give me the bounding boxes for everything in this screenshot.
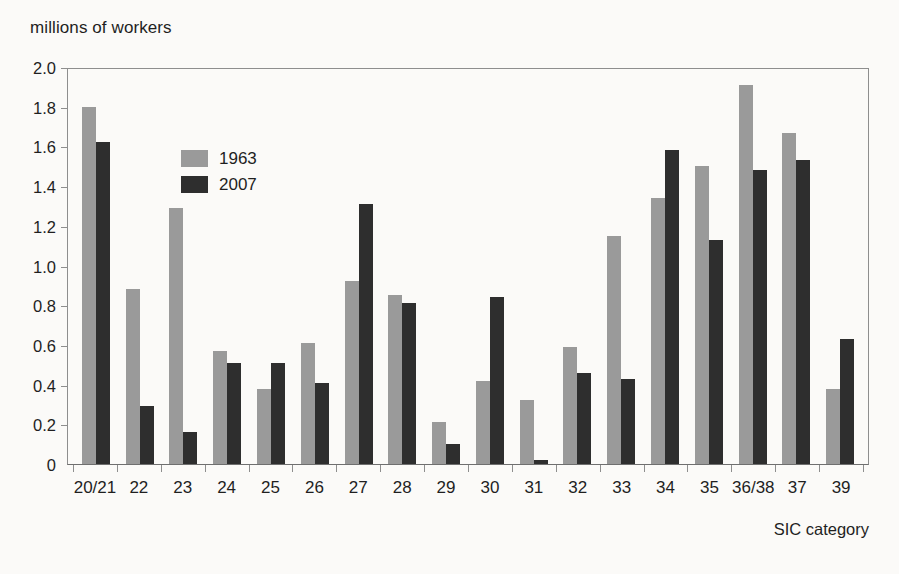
y-axis-tick-mark xyxy=(61,108,67,109)
x-axis-tick-mark xyxy=(161,465,162,472)
y-axis-tick-mark xyxy=(61,68,67,69)
x-axis-label-33: 33 xyxy=(600,478,644,498)
bar-1963-30 xyxy=(476,381,490,464)
bar-group xyxy=(337,69,381,464)
bar-2007-39 xyxy=(840,339,854,464)
x-axis-tick-mark xyxy=(249,465,250,472)
x-axis-label-24: 24 xyxy=(205,478,249,498)
bar-group xyxy=(118,69,162,464)
bar-2007-20-21 xyxy=(96,142,110,464)
bar-group xyxy=(205,69,249,464)
y-axis-tick-mark xyxy=(61,346,67,347)
bar-1963-35 xyxy=(695,166,709,464)
bar-2007-27 xyxy=(359,204,373,464)
bar-group xyxy=(556,69,600,464)
bar-1963-23 xyxy=(169,208,183,464)
y-axis-tick-mark xyxy=(61,147,67,148)
bar-2007-35 xyxy=(709,240,723,464)
chart-figure: millions of workers 1963 2007 2.01.81.61… xyxy=(0,0,899,574)
x-axis-tick-mark xyxy=(731,465,732,472)
bar-2007-28 xyxy=(402,303,416,464)
y-axis-tick-mark xyxy=(61,306,67,307)
plot-area: 1963 2007 xyxy=(67,68,869,465)
bar-group xyxy=(512,69,556,464)
x-axis-labels: 20/21222324252627282930313233343536/3837… xyxy=(67,478,869,498)
bar-2007-32 xyxy=(577,373,591,464)
bar-group xyxy=(468,69,512,464)
bar-2007-25 xyxy=(271,363,285,464)
bar-1963-33 xyxy=(607,236,621,464)
bar-group xyxy=(380,69,424,464)
x-axis-label-26: 26 xyxy=(292,478,336,498)
bar-group xyxy=(74,69,118,464)
bar-group xyxy=(731,69,775,464)
x-axis-label-30: 30 xyxy=(468,478,512,498)
legend-label-2007: 2007 xyxy=(219,176,257,193)
legend-swatch-2007 xyxy=(181,176,208,193)
x-axis-label-27: 27 xyxy=(336,478,380,498)
y-axis-tick-label: 2.0 xyxy=(0,60,67,77)
bar-2007-36-38 xyxy=(753,170,767,464)
legend-swatch-1963 xyxy=(181,150,208,167)
x-axis-tick-mark xyxy=(73,465,74,472)
bar-2007-23 xyxy=(183,432,197,464)
y-axis-tick-mark xyxy=(61,187,67,188)
y-axis-tick-label: 1.6 xyxy=(0,139,67,156)
x-axis-title: SIC category xyxy=(774,520,869,539)
x-axis-tick-mark xyxy=(424,465,425,472)
x-axis-tick-mark xyxy=(600,465,601,472)
bar-group xyxy=(599,69,643,464)
bar-1963-27 xyxy=(345,281,359,464)
legend-item-2007: 2007 xyxy=(181,171,257,197)
bar-2007-29 xyxy=(446,444,460,464)
x-axis-label-20-21: 20/21 xyxy=(73,478,117,498)
x-axis-tick-mark xyxy=(117,465,118,472)
bar-group xyxy=(643,69,687,464)
x-axis-tick-mark xyxy=(292,465,293,472)
x-axis-label-34: 34 xyxy=(644,478,688,498)
y-axis-tick-label: 1.2 xyxy=(0,219,67,236)
x-axis-tick-mark xyxy=(512,465,513,472)
bar-group xyxy=(775,69,819,464)
bar-group xyxy=(162,69,206,464)
x-axis-tick-mark xyxy=(205,465,206,472)
bar-1963-26 xyxy=(301,343,315,464)
bar-2007-33 xyxy=(621,379,635,464)
x-axis-label-36-38: 36/38 xyxy=(731,478,775,498)
bar-groups xyxy=(68,69,868,464)
bar-group xyxy=(293,69,337,464)
x-axis-label-29: 29 xyxy=(424,478,468,498)
bar-2007-30 xyxy=(490,297,504,464)
bar-1963-25 xyxy=(257,389,271,464)
bar-1963-28 xyxy=(388,295,402,464)
bar-1963-20-21 xyxy=(82,107,96,464)
x-axis-label-28: 28 xyxy=(380,478,424,498)
bar-1963-22 xyxy=(126,289,140,464)
chart-title: millions of workers xyxy=(30,18,172,38)
bar-2007-22 xyxy=(140,406,154,464)
bar-1963-39 xyxy=(826,389,840,464)
bar-group xyxy=(424,69,468,464)
bar-2007-37 xyxy=(796,160,810,464)
bar-1963-31 xyxy=(520,400,534,464)
x-axis-label-25: 25 xyxy=(249,478,293,498)
x-axis-tick-mark xyxy=(863,465,864,472)
x-axis-label-23: 23 xyxy=(161,478,205,498)
bar-1963-24 xyxy=(213,351,227,464)
bar-1963-36-38 xyxy=(739,85,753,464)
bar-group xyxy=(818,69,862,464)
x-axis-tick-mark xyxy=(819,465,820,472)
x-axis-tick-mark xyxy=(468,465,469,472)
x-axis-label-39: 39 xyxy=(819,478,863,498)
y-axis-tick-mark xyxy=(61,267,67,268)
x-axis-tick-mark xyxy=(556,465,557,472)
x-axis-label-32: 32 xyxy=(556,478,600,498)
bar-2007-34 xyxy=(665,150,679,464)
bar-2007-31 xyxy=(534,460,548,464)
bar-2007-24 xyxy=(227,363,241,464)
legend-label-1963: 1963 xyxy=(219,150,257,167)
bar-1963-37 xyxy=(782,133,796,464)
y-axis-tick-mark xyxy=(61,425,67,426)
x-axis-label-31: 31 xyxy=(512,478,556,498)
y-axis-tick-mark xyxy=(61,227,67,228)
